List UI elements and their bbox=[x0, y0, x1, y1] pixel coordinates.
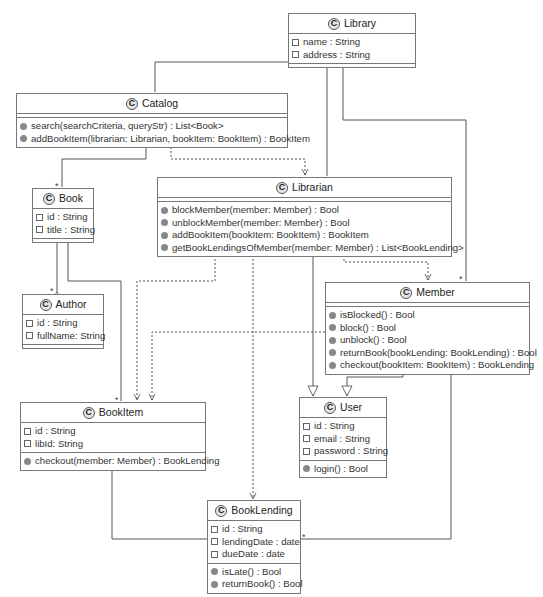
field-row: lendingDate : date bbox=[211, 536, 297, 549]
class-header: C BookLending bbox=[208, 501, 300, 521]
field-row: password : String bbox=[303, 445, 383, 458]
field-icon bbox=[24, 428, 31, 435]
field-icon bbox=[303, 435, 310, 442]
method-row: isLate() : Bool bbox=[211, 566, 297, 579]
field-text: id : String bbox=[47, 211, 88, 224]
class-header: C User bbox=[300, 398, 386, 418]
class-library[interactable]: C Library name : String address : String bbox=[288, 13, 416, 68]
method-text: checkout(member: Member) : BookLending bbox=[35, 455, 220, 468]
method-text: block() : Bool bbox=[340, 322, 396, 335]
method-row: checkout(member: Member) : BookLending bbox=[24, 455, 202, 468]
field-text: libId: String bbox=[35, 438, 83, 451]
method-text: isLate() : Bool bbox=[222, 566, 281, 579]
method-text: addBookItem(librarian: Librarian, bookIt… bbox=[31, 133, 310, 146]
class-user[interactable]: C User id : String email : String passwo… bbox=[299, 397, 387, 478]
methods-section: isLate() : Bool returnBook() : Bool bbox=[208, 564, 300, 593]
method-row: checkout(bookItem: BookItem) : BookLendi… bbox=[329, 359, 526, 372]
methods-section: isBlocked() : Bool block() : Bool unbloc… bbox=[326, 307, 529, 374]
field-row: fullName: String bbox=[26, 330, 100, 343]
field-text: name : String bbox=[303, 36, 360, 49]
method-text: search(searchCriteria, queryStr) : List<… bbox=[31, 120, 223, 133]
class-stereotype-icon: C bbox=[83, 407, 95, 419]
method-icon bbox=[329, 312, 336, 319]
methods-section bbox=[33, 239, 93, 242]
method-row: unblock() : Bool bbox=[329, 334, 526, 347]
method-icon bbox=[303, 465, 310, 472]
class-stereotype-icon: C bbox=[400, 287, 412, 299]
field-icon bbox=[303, 448, 310, 455]
method-row: returnBook() : Bool bbox=[211, 578, 297, 591]
method-icon bbox=[329, 337, 336, 344]
class-name: Librarian bbox=[292, 181, 333, 194]
class-name: Library bbox=[344, 17, 376, 30]
methods-section bbox=[289, 64, 415, 67]
link-bookitem-booklending bbox=[112, 462, 207, 539]
methods-section: checkout(member: Member) : BookLending bbox=[21, 453, 205, 470]
method-row: search(searchCriteria, queryStr) : List<… bbox=[20, 120, 284, 133]
field-row: name : String bbox=[292, 36, 412, 49]
field-icon bbox=[292, 39, 299, 46]
method-icon bbox=[211, 581, 218, 588]
method-text: addBookItem(bookItem: BookItem) : BookIt… bbox=[172, 229, 369, 242]
class-author[interactable]: C Author id : String fullName: String bbox=[22, 294, 104, 349]
link-library-catalog bbox=[155, 62, 308, 92]
class-name: Book bbox=[59, 192, 83, 205]
method-text: login() : Bool bbox=[314, 463, 368, 476]
field-text: id : String bbox=[37, 317, 78, 330]
field-icon bbox=[211, 526, 218, 533]
field-text: fullName: String bbox=[37, 330, 105, 343]
field-row: libId: String bbox=[24, 438, 202, 451]
class-header: C Library bbox=[289, 14, 415, 34]
method-icon bbox=[329, 324, 336, 331]
class-book[interactable]: C Book id : String title : String bbox=[32, 188, 94, 243]
field-row: title : String bbox=[36, 224, 90, 237]
method-text: unblockMember(member: Member) : Bool bbox=[172, 217, 350, 230]
field-text: title : String bbox=[47, 224, 95, 237]
field-row: address : String bbox=[292, 49, 412, 62]
field-icon bbox=[211, 551, 218, 558]
method-text: getBookLendingsOfMember(member: Member) … bbox=[172, 242, 464, 255]
link-catalog-book bbox=[62, 143, 146, 187]
field-row: id : String bbox=[24, 425, 202, 438]
class-name: Catalog bbox=[142, 97, 178, 110]
field-icon bbox=[36, 214, 43, 221]
class-header: C Author bbox=[23, 295, 103, 315]
method-row: addBookItem(librarian: Librarian, bookIt… bbox=[20, 133, 284, 146]
class-catalog[interactable]: C Catalog search(searchCriteria, querySt… bbox=[16, 93, 288, 148]
method-text: checkout(bookItem: BookItem) : BookLendi… bbox=[340, 359, 534, 372]
method-row: blockMember(member: Member) : Bool bbox=[161, 204, 448, 217]
field-text: id : String bbox=[35, 425, 76, 438]
field-icon bbox=[26, 320, 33, 327]
method-row: unblockMember(member: Member) : Bool bbox=[161, 217, 448, 230]
method-row: block() : Bool bbox=[329, 322, 526, 335]
method-row: returnBook(bookLending: BookLending) : B… bbox=[329, 347, 526, 360]
field-text: address : String bbox=[303, 49, 370, 62]
class-header: C Member bbox=[326, 283, 529, 303]
class-name: Member bbox=[416, 286, 455, 299]
multiplicity-label: * bbox=[302, 532, 306, 542]
fields-section: id : String libId: String bbox=[21, 423, 205, 453]
class-stereotype-icon: C bbox=[276, 182, 288, 194]
class-header: C Catalog bbox=[17, 94, 287, 114]
class-booklending[interactable]: C BookLending id : String lendingDate : … bbox=[207, 500, 301, 594]
field-text: id : String bbox=[222, 523, 263, 536]
methods-section: search(searchCriteria, queryStr) : List<… bbox=[17, 118, 287, 147]
field-text: dueDate : date bbox=[222, 548, 285, 561]
class-librarian[interactable]: C Librarian blockMember(member: Member) … bbox=[157, 177, 452, 257]
field-icon bbox=[292, 51, 299, 58]
method-icon bbox=[20, 135, 27, 142]
class-name: BookLending bbox=[231, 504, 292, 517]
method-icon bbox=[161, 207, 168, 214]
methods-section bbox=[23, 345, 103, 348]
method-text: unblock() : Bool bbox=[340, 334, 407, 347]
class-name: Author bbox=[56, 298, 87, 311]
method-text: blockMember(member: Member) : Bool bbox=[172, 204, 339, 217]
method-icon bbox=[161, 244, 168, 251]
method-icon bbox=[329, 362, 336, 369]
method-row: login() : Bool bbox=[303, 463, 383, 476]
class-name: User bbox=[340, 401, 362, 414]
field-row: email : String bbox=[303, 433, 383, 446]
class-member[interactable]: C Member isBlocked() : Bool block() : Bo… bbox=[325, 282, 530, 375]
class-bookitem[interactable]: C BookItem id : String libId: String che… bbox=[20, 402, 206, 471]
method-icon bbox=[161, 219, 168, 226]
